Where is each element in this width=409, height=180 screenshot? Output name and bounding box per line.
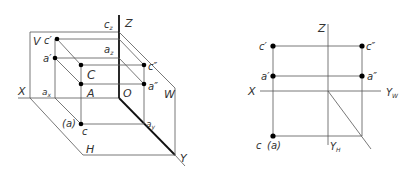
point-c-dprime [142,63,147,68]
a-prime-to-A [55,58,81,84]
cz-to-c-dprime [119,39,144,65]
label-cz: cz [104,19,114,31]
point-c-dprime [359,43,364,48]
point-c-prime [55,37,60,42]
point-A [79,82,84,87]
label-c-dprime: c″ [366,41,375,52]
label-YW: YW [386,87,399,99]
point-c-h [270,133,275,138]
az-to-a-dprime [119,58,144,84]
label-c-prime: c′ [44,35,52,46]
label-W: W [164,88,176,101]
point-c-prime [270,43,275,48]
label-a-h: (a) [267,140,281,151]
projection-diagram: V c′ a′ cz Z az C A c″ a″ W X ax O (a) c… [0,0,409,180]
label-Z: Z [124,17,133,30]
point-a-dprime [142,82,147,87]
label-ax: ax [42,87,52,98]
label-c-h: c [256,140,262,151]
label-a-prime: a′ [261,71,270,82]
label-X: X [17,85,26,98]
point-C [79,63,84,68]
point-a-dprime [359,73,364,78]
label-a-dprime: a″ [367,71,377,82]
label-X: X [247,85,256,98]
label-Z: Z [317,22,326,35]
c-prime-to-C [57,39,81,65]
w-plane-top-edge [119,32,175,88]
label-YH: YH [330,141,341,153]
point-a-prime [53,56,58,61]
label-O: O [123,87,132,100]
label-ay: ay [146,119,156,131]
label-C: C [87,68,96,82]
label-c-prime: c′ [259,41,267,52]
label-a-dprime: a″ [148,81,158,92]
label-a-h: (a) [62,118,76,129]
label-Y: Y [180,152,188,165]
label-H: H [86,143,94,156]
label-c-h: c [82,126,88,137]
point-a-prime [270,73,275,78]
label-V: V [33,35,42,48]
left-3d-view: V c′ a′ cz Z az C A c″ a″ W X ax O (a) c… [17,15,188,166]
label-A: A [86,87,95,100]
label-a-prime: a′ [43,53,52,64]
label-c-dprime: c″ [148,61,157,72]
label-az: az [104,44,114,56]
right-unfolded-view: Z c′ c″ a′ a″ X YW c (a) YH [247,22,399,153]
